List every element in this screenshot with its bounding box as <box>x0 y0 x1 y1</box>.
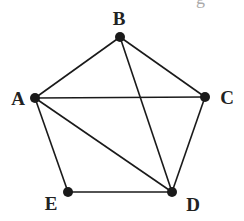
node-label-b: B <box>113 8 126 29</box>
node-d <box>167 187 177 197</box>
edges-group <box>35 37 205 192</box>
node-e <box>63 187 73 197</box>
node-b <box>115 32 125 42</box>
edge-a-e <box>35 98 68 192</box>
edge-b-c <box>120 37 205 97</box>
edge-a-c <box>35 97 205 98</box>
nodes-group <box>30 32 210 197</box>
node-label-e: E <box>45 193 58 214</box>
node-label-c: C <box>220 87 234 108</box>
edge-c-d <box>172 97 205 192</box>
edge-b-d <box>120 37 172 192</box>
node-label-a: A <box>11 88 25 109</box>
edge-a-b <box>35 37 120 98</box>
node-c <box>200 92 210 102</box>
node-a <box>30 93 40 103</box>
graph-diagram: ABCDE <box>0 0 244 221</box>
edge-a-d <box>35 98 172 192</box>
node-label-d: D <box>186 194 200 215</box>
